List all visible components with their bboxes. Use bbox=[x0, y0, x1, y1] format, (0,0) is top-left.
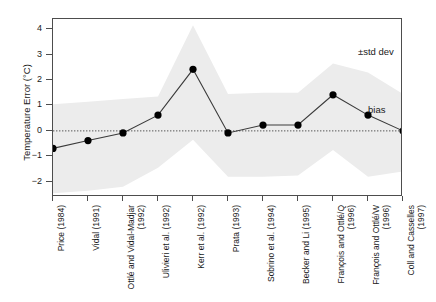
x-tick-mark bbox=[52, 196, 53, 201]
x-tick-label: Ottlé and Vidal-Madjar (1992) bbox=[126, 205, 146, 301]
bias-annotation-label: bias bbox=[368, 104, 385, 115]
data-point bbox=[119, 129, 126, 136]
x-tick-mark bbox=[192, 196, 193, 201]
std-dev-annotation-label: ±std dev bbox=[358, 46, 394, 57]
x-tick-label: François and Ottlé/Q (1996) bbox=[336, 205, 356, 301]
x-tick-mark bbox=[367, 196, 368, 201]
plot-svg bbox=[53, 19, 402, 196]
y-tick-label: −2 bbox=[22, 176, 42, 185]
x-tick-label: Becker and Li (1995) bbox=[301, 205, 311, 301]
y-tick-label: 3 bbox=[22, 49, 42, 58]
x-tick-label: Sobrino et al. (1994) bbox=[266, 205, 276, 301]
x-tick-label: Price (1984) bbox=[56, 205, 66, 301]
y-tick-label: −1 bbox=[22, 151, 42, 160]
x-tick-mark bbox=[122, 196, 123, 201]
x-tick-mark bbox=[262, 196, 263, 201]
x-tick-mark bbox=[297, 196, 298, 201]
data-point bbox=[259, 121, 266, 128]
x-tick-mark bbox=[157, 196, 158, 201]
y-tick-label: 4 bbox=[22, 24, 42, 33]
x-tick-label: Vidal (1991) bbox=[91, 205, 101, 301]
x-tick-label: François and Ottlé/W (1996) bbox=[371, 205, 391, 301]
data-point bbox=[189, 66, 196, 73]
data-point bbox=[84, 137, 91, 144]
data-point bbox=[329, 91, 336, 98]
chart-page: Temperature Error (°C) 43210−1−2 ±std de… bbox=[0, 0, 436, 302]
y-tick-label: 0 bbox=[22, 125, 42, 134]
y-axis: Temperature Error (°C) 43210−1−2 bbox=[0, 0, 52, 302]
data-point bbox=[294, 121, 301, 128]
y-tick-label: 2 bbox=[22, 75, 42, 84]
x-tick-label: Ulivieri et al. (1992) bbox=[161, 205, 171, 301]
x-tick-mark bbox=[332, 196, 333, 201]
y-tick-label: 1 bbox=[22, 100, 42, 109]
x-tick-mark bbox=[227, 196, 228, 201]
data-point bbox=[224, 129, 231, 136]
x-tick-mark bbox=[87, 196, 88, 201]
plot-area bbox=[52, 18, 402, 196]
x-tick-mark bbox=[402, 196, 403, 201]
x-tick-label: Coll and Casselles (1997) bbox=[406, 205, 426, 301]
std-dev-band bbox=[53, 25, 402, 193]
data-point bbox=[154, 112, 161, 119]
x-tick-label: Kerr et al. (1992) bbox=[196, 205, 206, 301]
x-tick-label: Prata (1993) bbox=[231, 205, 241, 301]
